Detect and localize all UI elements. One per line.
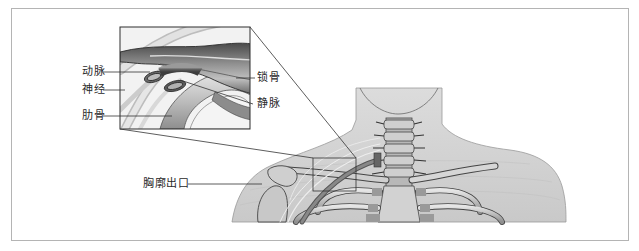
thoracic-outlet-illustration: [0, 0, 639, 251]
label-artery: 动脉: [82, 66, 105, 78]
label-rib: 肋骨: [82, 110, 105, 122]
label-clavicle: 锁骨: [257, 72, 280, 84]
label-vein: 静脉: [257, 98, 280, 110]
inset-magnified-view: [120, 18, 260, 129]
label-thoracic-outlet: 胸廓出口: [143, 178, 189, 190]
sternum: [378, 186, 420, 222]
label-nerve: 神经: [82, 84, 105, 96]
